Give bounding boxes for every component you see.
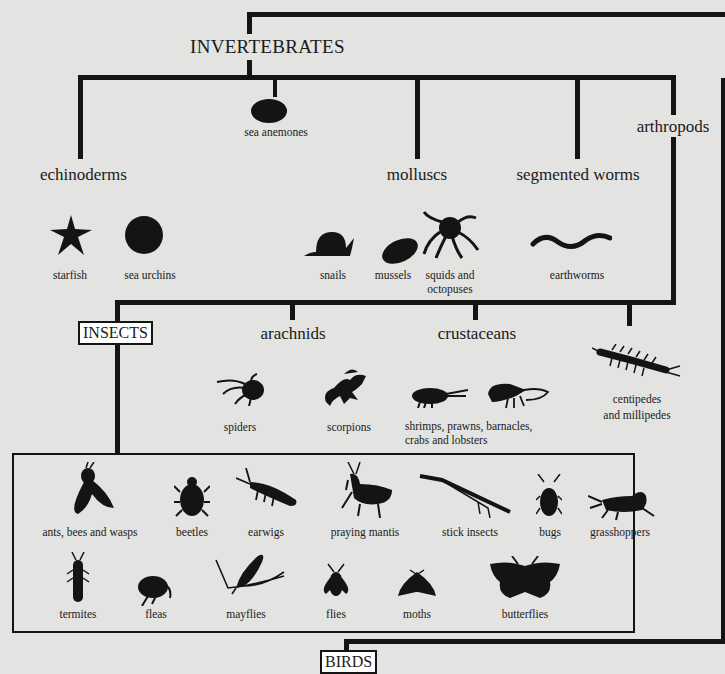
octopus-icon <box>418 210 483 260</box>
group-sea-anemones: sea anemones <box>230 125 322 139</box>
echinoderms-stem <box>78 75 83 159</box>
spider-icon <box>215 372 267 406</box>
sea-anemone-icon <box>249 98 291 124</box>
shrimp-icon <box>410 384 468 408</box>
termite-icon <box>66 552 90 604</box>
arachnids-stem <box>290 300 295 320</box>
stick-insect-icon <box>418 474 514 518</box>
molluscs-stem <box>415 75 420 159</box>
label-crustaceans-1: shrimps, prawns, barnacles, <box>405 419 545 433</box>
mussel-icon <box>380 236 420 266</box>
label-butterflies: butterflies <box>490 607 560 621</box>
label-praying-mantis: praying mantis <box>320 525 410 539</box>
label-flies: flies <box>316 607 356 621</box>
group-molluscs: molluscs <box>385 165 449 185</box>
label-beetles: beetles <box>168 525 216 539</box>
butterfly-icon <box>488 556 562 600</box>
label-moths: moths <box>392 607 442 621</box>
page-title: INVERTEBRATES <box>190 36 310 58</box>
label-centipedes: centipedes <box>592 392 682 406</box>
prawn-icon <box>486 380 550 410</box>
invertebrates-branch-bar <box>78 75 488 80</box>
label-squids: squids and <box>420 268 480 282</box>
arthropods-upper <box>671 77 676 115</box>
label-scorpions: scorpions <box>318 420 380 434</box>
group-segmented-worms: segmented worms <box>515 165 641 185</box>
arthropods-lower <box>671 137 676 305</box>
snail-icon <box>302 228 362 258</box>
label-snails: snails <box>310 268 356 282</box>
group-insects: INSECTS <box>78 321 153 345</box>
label-starfish: starfish <box>40 268 100 282</box>
worms-stem <box>575 75 580 159</box>
group-arthropods: arthropods <box>632 117 714 137</box>
label-millipedes: and millipedes <box>592 408 682 422</box>
right-spine <box>721 78 725 643</box>
label-stick-insects: stick insects <box>430 525 510 539</box>
label-spiders: spiders <box>215 420 265 434</box>
beetle-icon <box>174 474 210 518</box>
label-sea-urchins: sea urchins <box>115 268 185 282</box>
label-bugs: bugs <box>530 525 570 539</box>
arthropods-top-join <box>485 75 676 80</box>
sea-urchin-icon <box>122 215 166 255</box>
label-fleas: fleas <box>136 607 176 621</box>
top-connector <box>247 12 725 17</box>
label-octopuses: octopuses <box>420 282 480 296</box>
top-connector-drop <box>247 12 252 34</box>
group-arachnids: arachnids <box>258 324 328 344</box>
group-birds: BIRDS <box>320 650 377 674</box>
group-echinoderms: echinoderms <box>40 165 120 185</box>
label-mayflies: mayflies <box>216 607 276 621</box>
group-crustaceans: crustaceans <box>433 324 521 344</box>
bug-icon <box>536 474 562 520</box>
arthropods-branch-bar <box>115 300 676 305</box>
label-earthworms: earthworms <box>540 268 614 282</box>
moth-icon <box>396 566 438 598</box>
praying-mantis-icon <box>338 462 394 518</box>
label-ants-bees-wasps: ants, bees and wasps <box>20 525 160 539</box>
label-termites: termites <box>50 607 106 621</box>
label-grasshoppers: grasshoppers <box>580 525 660 539</box>
flea-icon <box>136 574 174 606</box>
starfish-icon <box>48 213 94 257</box>
earthworm-icon <box>530 230 612 252</box>
mayfly-icon <box>214 552 286 596</box>
myriapods-stem <box>627 300 632 326</box>
label-earwigs: earwigs <box>236 525 296 539</box>
centipede-icon <box>592 344 682 378</box>
earwig-icon <box>236 468 300 510</box>
crustaceans-stem <box>473 300 478 320</box>
label-mussels: mussels <box>370 268 416 282</box>
scorpion-icon <box>322 366 372 412</box>
anemone-stem <box>273 75 277 97</box>
bottom-connector <box>344 639 725 644</box>
wasp-icon <box>68 462 116 516</box>
fly-icon <box>320 560 352 600</box>
label-crustaceans-2: crabs and lobsters <box>405 433 545 447</box>
grasshopper-icon <box>588 486 656 522</box>
